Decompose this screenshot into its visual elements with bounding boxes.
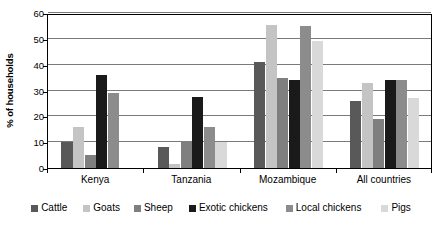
legend-item[interactable]: Pigs bbox=[381, 203, 410, 213]
gridline bbox=[48, 12, 431, 13]
x-axis-tick-mark bbox=[47, 169, 48, 173]
y-axis-tick-label: 50 bbox=[22, 35, 44, 45]
bar bbox=[277, 78, 288, 168]
x-axis-labels: KenyaTanzaniaMozambiqueAll countries bbox=[47, 174, 432, 190]
bar bbox=[85, 155, 96, 168]
legend-item[interactable]: Local chickens bbox=[286, 203, 362, 213]
y-axis-tick-label: 10 bbox=[22, 138, 44, 148]
x-axis-tick-mark bbox=[240, 169, 241, 173]
chart-legend: CattleGoatsSheepExotic chickensLocal chi… bbox=[0, 198, 442, 218]
legend-item[interactable]: Goats bbox=[83, 203, 120, 213]
legend-label: Sheep bbox=[144, 203, 173, 213]
bar bbox=[108, 93, 119, 168]
x-axis-label: Mozambique bbox=[259, 174, 316, 185]
bar bbox=[169, 164, 180, 168]
bar bbox=[385, 80, 396, 168]
bar bbox=[61, 142, 72, 168]
bar bbox=[300, 26, 311, 168]
y-axis-title: % of households bbox=[0, 0, 18, 180]
bar bbox=[396, 80, 407, 168]
x-axis-label: All countries bbox=[357, 174, 411, 185]
bar bbox=[373, 119, 384, 168]
legend-label: Exotic chickens bbox=[199, 203, 268, 213]
x-axis-label: Kenya bbox=[81, 174, 109, 185]
bar-group bbox=[241, 15, 337, 168]
legend-item[interactable]: Sheep bbox=[134, 203, 173, 213]
y-axis-tick-label: 20 bbox=[22, 113, 44, 123]
bar bbox=[254, 62, 265, 168]
bar bbox=[362, 83, 373, 168]
legend-item[interactable]: Cattle bbox=[31, 203, 67, 213]
legend-label: Local chickens bbox=[296, 203, 362, 213]
bar bbox=[266, 25, 277, 168]
bar-chart: % of households 0102030405060 KenyaTanza… bbox=[0, 0, 442, 225]
bar bbox=[192, 97, 203, 168]
bar bbox=[181, 141, 192, 168]
y-axis-title-text: % of households bbox=[4, 53, 15, 128]
plot-area bbox=[47, 14, 432, 169]
x-axis-tick-mark bbox=[431, 169, 432, 173]
bar bbox=[289, 80, 300, 168]
bar-group bbox=[337, 15, 433, 168]
legend-label: Goats bbox=[93, 203, 120, 213]
bar-group bbox=[48, 15, 144, 168]
bar bbox=[215, 142, 226, 168]
legend-swatch-icon bbox=[134, 205, 141, 212]
legend-swatch-icon bbox=[189, 205, 196, 212]
bar bbox=[350, 101, 361, 168]
legend-swatch-icon bbox=[286, 205, 293, 212]
legend-swatch-icon bbox=[381, 205, 388, 212]
legend-swatch-icon bbox=[83, 205, 90, 212]
bar bbox=[73, 127, 84, 168]
bar bbox=[204, 127, 215, 168]
x-axis-label: Tanzania bbox=[171, 174, 211, 185]
bar bbox=[312, 41, 323, 168]
legend-item[interactable]: Exotic chickens bbox=[189, 203, 268, 213]
y-axis-tick-label: 40 bbox=[22, 61, 44, 71]
y-axis-tick-label: 60 bbox=[22, 9, 44, 19]
y-axis-tick-labels: 0102030405060 bbox=[19, 14, 44, 169]
bar bbox=[408, 98, 419, 168]
legend-label: Cattle bbox=[41, 203, 67, 213]
x-axis-tick-mark bbox=[143, 169, 144, 173]
legend-label: Pigs bbox=[391, 203, 410, 213]
y-axis-tick-label: 30 bbox=[22, 87, 44, 97]
legend-swatch-icon bbox=[31, 205, 38, 212]
bars-layer bbox=[48, 15, 431, 168]
x-axis-tick-mark bbox=[336, 169, 337, 173]
y-axis-tick-label: 0 bbox=[22, 164, 44, 174]
bar-group bbox=[144, 15, 240, 168]
bar bbox=[158, 147, 169, 168]
bar bbox=[96, 75, 107, 168]
